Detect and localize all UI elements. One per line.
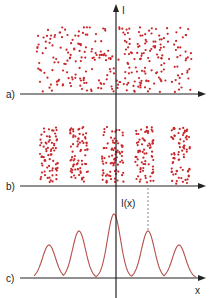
particle-dot xyxy=(122,162,124,164)
particle-dot xyxy=(42,52,44,54)
particle-dot xyxy=(175,31,177,33)
particle-dot xyxy=(75,60,77,62)
particle-dot xyxy=(168,58,170,60)
particle-dot xyxy=(179,27,181,29)
panel-a-dots xyxy=(36,26,193,93)
particle-dot xyxy=(122,132,124,134)
particle-dot xyxy=(44,170,46,172)
particle-dot xyxy=(103,83,105,85)
particle-dot xyxy=(172,157,174,159)
particle-dot xyxy=(72,151,74,153)
particle-dot xyxy=(51,169,53,171)
particle-dot xyxy=(79,85,81,87)
particle-dot xyxy=(123,83,125,85)
particle-dot xyxy=(49,38,51,40)
particle-dot xyxy=(80,149,82,151)
particle-dot xyxy=(122,181,124,183)
particle-dot xyxy=(86,89,88,91)
particle-dot xyxy=(36,46,38,48)
particle-dot xyxy=(77,160,79,162)
particle-dot xyxy=(74,177,76,179)
particle-dot xyxy=(140,55,142,57)
particle-dot xyxy=(128,72,130,74)
particle-dot xyxy=(70,85,72,87)
particle-dot xyxy=(100,83,102,85)
particle-dot xyxy=(51,90,53,92)
particle-dot xyxy=(158,76,160,78)
particle-dot xyxy=(73,163,75,165)
particle-dot xyxy=(68,77,70,79)
arrow-right-icon xyxy=(198,91,206,97)
particle-dot xyxy=(183,140,185,142)
particle-dot xyxy=(111,162,113,164)
particle-dot xyxy=(90,88,92,90)
particle-dot xyxy=(139,86,141,88)
particle-dot xyxy=(103,147,105,149)
particle-dot xyxy=(127,63,129,65)
particle-dot xyxy=(138,31,140,33)
particle-dot xyxy=(152,168,154,170)
particle-dot xyxy=(60,47,62,49)
particle-dot xyxy=(121,28,123,30)
particle-dot xyxy=(100,51,102,53)
particle-dot xyxy=(144,33,146,35)
particle-dot xyxy=(73,48,75,50)
particle-dot xyxy=(45,41,47,43)
particle-dot xyxy=(86,145,88,147)
particle-dot xyxy=(134,80,136,82)
particle-dot xyxy=(86,142,88,144)
particle-dot xyxy=(75,74,77,76)
particle-dot xyxy=(131,52,133,54)
particle-dot xyxy=(82,32,84,34)
particle-dot xyxy=(135,133,137,135)
particle-dot xyxy=(122,134,124,136)
particle-dot xyxy=(153,83,155,85)
particle-dot xyxy=(151,69,153,71)
particle-dot xyxy=(40,134,42,136)
particle-dot xyxy=(139,178,141,180)
particle-dot xyxy=(188,174,190,176)
particle-dot xyxy=(39,153,41,155)
particle-dot xyxy=(45,142,47,144)
particle-dot xyxy=(66,34,68,36)
particle-dot xyxy=(100,87,102,89)
particle-dot xyxy=(127,32,129,34)
particle-dot xyxy=(113,67,115,69)
particle-dot xyxy=(173,152,175,154)
particle-dot xyxy=(89,26,91,28)
particle-dot xyxy=(37,35,39,37)
particle-dot xyxy=(124,71,126,73)
particle-dot xyxy=(74,35,76,37)
particle-dot xyxy=(50,154,52,156)
particle-dot xyxy=(189,89,191,91)
particle-dot xyxy=(164,79,166,81)
particle-dot xyxy=(151,142,153,144)
particle-dot xyxy=(180,86,182,88)
particle-dot xyxy=(140,129,142,131)
particle-dot xyxy=(102,160,104,162)
particle-dot xyxy=(95,33,97,35)
particle-dot xyxy=(185,34,187,36)
particle-dot xyxy=(167,33,169,35)
particle-dot xyxy=(82,142,84,144)
particle-dot xyxy=(102,134,104,136)
particle-dot xyxy=(43,127,45,129)
particle-dot xyxy=(94,59,96,61)
particle-dot xyxy=(79,67,81,69)
particle-dot xyxy=(134,161,136,163)
particle-dot xyxy=(51,44,53,46)
particle-dot xyxy=(152,130,154,132)
particle-dot xyxy=(111,155,113,157)
particle-dot xyxy=(69,128,71,130)
particle-dot xyxy=(95,52,97,54)
particle-dot xyxy=(119,81,121,83)
particle-dot xyxy=(144,42,146,44)
particle-dot xyxy=(172,174,174,176)
particle-dot xyxy=(83,78,85,80)
particle-dot xyxy=(69,82,71,84)
particle-dot xyxy=(147,57,149,59)
particle-dot xyxy=(76,163,78,165)
particle-dot xyxy=(150,180,152,182)
arrow-right-icon xyxy=(198,275,206,281)
particle-dot xyxy=(77,168,79,170)
